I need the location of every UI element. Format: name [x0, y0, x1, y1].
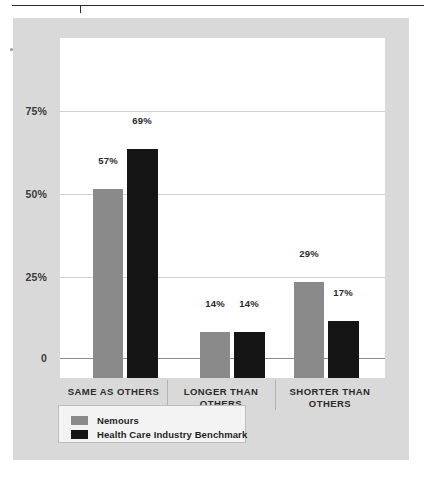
bar-nemours-longer-than-others[interactable]	[200, 332, 230, 378]
chart-card: 75% 50% 25% 0 57% 69% 14% 14% 29% 17% SA…	[13, 18, 409, 460]
bar-value-benchmark-longer-than-others: 14%	[229, 298, 269, 309]
legend-item-nemours[interactable]: Nemours	[71, 414, 139, 426]
bar-nemours-shorter-than-others[interactable]	[294, 282, 324, 378]
ytick-label-75: 75%	[7, 106, 47, 116]
gridline-75	[60, 111, 385, 112]
page-top-rule-tick	[80, 6, 81, 13]
bar-nemours-same-as-others[interactable]	[93, 189, 123, 378]
bar-benchmark-longer-than-others[interactable]	[234, 332, 265, 378]
legend-item-benchmark[interactable]: Health Care Industry Benchmark	[71, 428, 247, 440]
bar-value-benchmark-shorter-than-others: 17%	[323, 287, 363, 298]
bar-benchmark-shorter-than-others[interactable]	[328, 321, 359, 378]
ytick-label-0: 0	[7, 353, 47, 363]
category-label-shorter-than-others: SHORTER THAN OTHERS	[275, 386, 385, 410]
page-top-rule	[12, 5, 424, 6]
ytick-label-25: 25%	[7, 272, 47, 282]
plot-area: 57% 69% 14% 14% 29% 17%	[60, 38, 385, 378]
legend-label-nemours: Nemours	[97, 415, 139, 426]
category-label-same-as-others: SAME AS OTHERS	[60, 386, 167, 398]
bar-value-nemours-shorter-than-others: 29%	[289, 248, 329, 259]
legend-swatch-nemours-icon	[71, 416, 88, 425]
bar-value-nemours-same-as-others: 57%	[88, 155, 128, 166]
legend-label-benchmark: Health Care Industry Benchmark	[97, 429, 247, 440]
bar-value-benchmark-same-as-others: 69%	[122, 115, 162, 126]
chart-legend: Nemours Health Care Industry Benchmark	[58, 405, 246, 443]
legend-swatch-benchmark-icon	[71, 430, 88, 439]
ytick-label-50: 50%	[7, 189, 47, 199]
bar-benchmark-same-as-others[interactable]	[127, 149, 158, 378]
